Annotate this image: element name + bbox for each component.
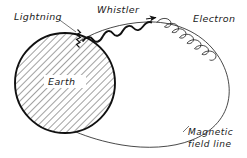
diagram-canvas: Earth Lightning Whistler Electron Magnet… — [0, 0, 247, 158]
whistler-group — [83, 22, 153, 42]
magnetic-field-line-label-line1: Magnetic — [188, 127, 233, 137]
magnetic-field-line-label-line2: field line — [188, 139, 232, 149]
magnetic-field-line-lower — [76, 132, 192, 147]
magnetic-field-line-caption-group: Magnetic field line — [183, 126, 233, 149]
electron-helix-group — [157, 18, 216, 60]
whistler-diagram: Earth Lightning Whistler Electron Magnet… — [0, 0, 247, 158]
propagation-arrow — [146, 18, 156, 20]
whistler-label: Whistler — [97, 4, 140, 15]
electron-label: Electron — [193, 13, 235, 24]
electron-helix — [157, 18, 216, 60]
lightning-label: Lightning — [14, 11, 62, 22]
earth-label: Earth — [48, 76, 75, 87]
earth-group: Earth — [15, 33, 115, 133]
propagation-arrow-group — [146, 18, 156, 20]
whistler-wave — [83, 22, 153, 42]
